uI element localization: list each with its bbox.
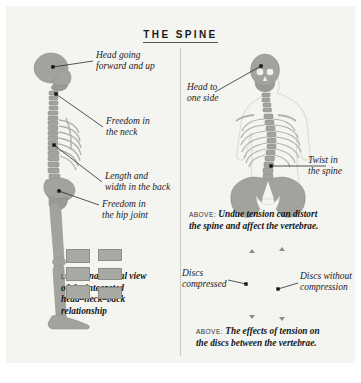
disc-blocks-container: [54, 249, 130, 319]
caption-text-right-bottom-2: the discs between the vertebrae.: [196, 338, 317, 348]
caption-text-right-top-1: Undue tension can distort: [218, 209, 317, 219]
vertebra-block: [98, 249, 122, 261]
disc-column-compressed: [66, 249, 90, 301]
right-panel-caption-bottom: ABOVE: The effects of tension on the dis…: [196, 326, 356, 349]
label-freedom-in-the-hip-joint: Freedom in the hip joint: [102, 199, 148, 221]
label-twist-in-the-spine: Twist in the spine: [308, 155, 342, 177]
label-discs-compressed: Discs compressed: [182, 268, 227, 290]
panel-divider: [180, 48, 181, 356]
vertebra-block: [66, 267, 90, 281]
label-head-to-one-side: Head to one side: [187, 82, 218, 104]
page-title: THE SPINE: [143, 29, 217, 43]
illustration-panel: THE SPINE: [6, 6, 355, 363]
label-freedom-in-the-neck: Freedom in the neck: [106, 116, 150, 138]
vertebra-block: [66, 249, 90, 263]
label-head-going-forward: Head going forward and up: [96, 50, 155, 72]
label-discs-without-compression: Discs without compression: [300, 271, 352, 293]
caption-lead-right-bottom: ABOVE:: [196, 328, 223, 335]
vertebra-block: [98, 268, 122, 280]
caption-text-right-top-2: the spine and affect the vertebrae.: [189, 221, 318, 231]
page-title-container: THE SPINE: [6, 24, 355, 43]
disc-column-uncompressed: [98, 249, 122, 301]
caption-text-right-bottom-1: The effects of tension on: [225, 326, 319, 336]
right-panel-caption-top: ABOVE: Undue tension can distort the spi…: [189, 209, 353, 232]
vertebra-block: [66, 285, 90, 299]
caption-lead-right-top: ABOVE:: [189, 211, 216, 218]
illustration-page: THE SPINE: [0, 0, 361, 383]
vertebra-block: [98, 287, 122, 299]
label-length-and-width-in-the-back: Length and width in the back: [105, 171, 170, 193]
